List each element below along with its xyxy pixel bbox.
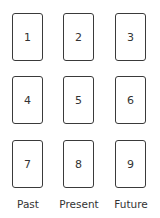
column-label-future: Future bbox=[105, 198, 157, 210]
card-number: 6 bbox=[127, 94, 134, 107]
card-position-6: 6 bbox=[115, 76, 146, 124]
card-number: 3 bbox=[127, 31, 134, 44]
card-number: 1 bbox=[24, 31, 31, 44]
column-label-present: Present bbox=[53, 198, 105, 210]
card-position-2: 2 bbox=[63, 13, 94, 61]
card-number: 2 bbox=[75, 31, 82, 44]
card-position-8: 8 bbox=[63, 140, 94, 188]
card-position-1: 1 bbox=[12, 13, 43, 61]
card-number: 5 bbox=[75, 94, 82, 107]
card-position-9: 9 bbox=[115, 140, 146, 188]
column-label-past: Past bbox=[2, 198, 54, 210]
card-position-7: 7 bbox=[12, 140, 43, 188]
card-number: 8 bbox=[75, 158, 82, 171]
card-position-5: 5 bbox=[63, 76, 94, 124]
card-number: 4 bbox=[24, 94, 31, 107]
card-number: 7 bbox=[24, 158, 31, 171]
card-position-4: 4 bbox=[12, 76, 43, 124]
card-position-3: 3 bbox=[115, 13, 146, 61]
card-number: 9 bbox=[127, 158, 134, 171]
